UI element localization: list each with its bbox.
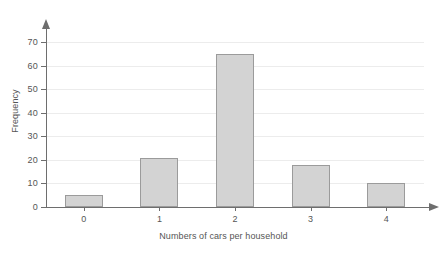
x-axis-tick-label: 4: [366, 214, 406, 224]
x-axis-tick-label: 3: [291, 214, 331, 224]
y-axis-arrow-icon: [42, 19, 50, 29]
x-axis-tick-label: 2: [215, 214, 255, 224]
y-axis-tick-label: 70: [4, 38, 38, 47]
bar: [140, 158, 178, 208]
x-axis-line: [46, 207, 430, 208]
y-axis-tick-label: 10: [4, 179, 38, 188]
bar: [292, 165, 330, 207]
bar-chart: 010203040506070 01234 Numbers of cars pe…: [0, 0, 447, 255]
bar: [65, 195, 103, 207]
bars-group: [46, 30, 424, 207]
x-axis-arrow-icon: [429, 203, 439, 211]
x-axis-tick: [386, 207, 387, 211]
x-axis-tick-label: 0: [64, 214, 104, 224]
x-axis-tick: [84, 207, 85, 211]
x-axis-tick: [159, 207, 160, 211]
x-axis-tick: [235, 207, 236, 211]
y-axis-tick-label: 0: [4, 203, 38, 212]
x-axis-title: Numbers of cars per household: [0, 231, 447, 241]
y-axis-title: Frequency: [10, 66, 20, 156]
x-axis-tick: [311, 207, 312, 211]
bar: [367, 183, 405, 207]
bar: [216, 54, 254, 207]
y-axis-tick-label: 20: [4, 156, 38, 165]
x-axis-tick-label: 1: [139, 214, 179, 224]
